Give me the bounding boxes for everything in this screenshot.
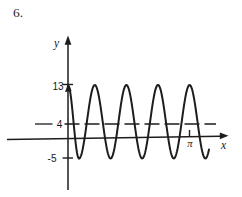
y-tick-label-mid: 4 (57, 119, 63, 130)
y-tick-label-min: -5 (48, 153, 57, 164)
y-tick-label-max: 13 (52, 81, 64, 92)
exercise-number: 6. (13, 5, 23, 20)
y-axis-label: y (53, 37, 60, 50)
textbook-figure: 6. y x 13 4 -5 π (0, 0, 242, 197)
y-axis-arrow-icon (65, 36, 72, 45)
x-tick-label-pi: π (187, 138, 193, 149)
x-axis-label: x (220, 139, 227, 151)
graph-canvas: 6. y x 13 4 -5 π (0, 0, 242, 197)
